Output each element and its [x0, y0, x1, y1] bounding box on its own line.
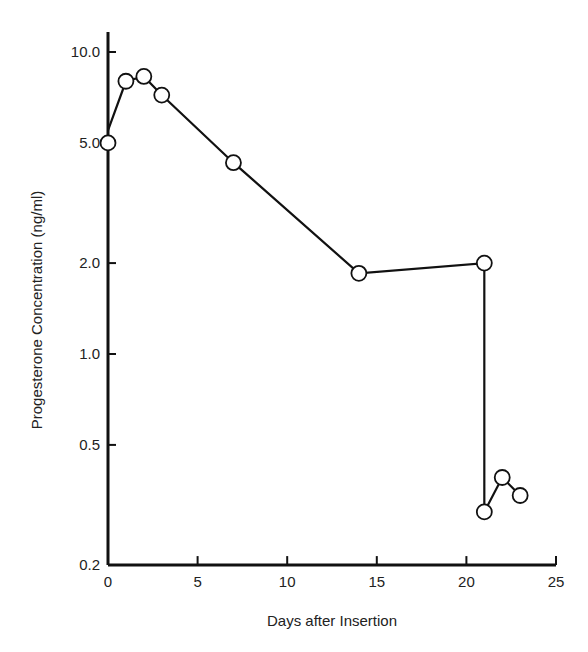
x-axis-title: Days after Insertion — [267, 612, 397, 629]
y-axis-title: Progesterone Concentration (ng/ml) — [28, 191, 45, 429]
y-tick-label: 10.0 — [71, 43, 100, 60]
x-tick-label: 0 — [104, 573, 112, 590]
progesterone-chart: 05101520250.20.51.02.05.010.0 Days after… — [0, 0, 588, 652]
x-tick-label: 25 — [548, 573, 565, 590]
series-line — [108, 76, 520, 511]
y-tick-label: 2.0 — [79, 254, 100, 271]
tick-marks — [108, 52, 556, 565]
y-tick-label: 1.0 — [79, 345, 100, 362]
data-point-marker — [118, 74, 133, 89]
data-point-marker — [351, 266, 366, 281]
x-tick-label: 15 — [368, 573, 385, 590]
data-point-marker — [101, 135, 116, 150]
data-point-marker — [136, 69, 151, 84]
data-point-marker — [154, 88, 169, 103]
y-tick-label: 5.0 — [79, 134, 100, 151]
x-tick-label: 5 — [193, 573, 201, 590]
data-point-marker — [477, 256, 492, 271]
y-tick-label: 0.5 — [79, 436, 100, 453]
data-point-marker — [477, 504, 492, 519]
axes — [108, 32, 556, 565]
data-point-marker — [513, 488, 528, 503]
data-point-marker — [226, 155, 241, 170]
y-tick-label: 0.2 — [79, 556, 100, 573]
x-tick-label: 10 — [279, 573, 296, 590]
data-series — [101, 69, 528, 519]
data-point-marker — [495, 470, 510, 485]
x-tick-label: 20 — [458, 573, 475, 590]
